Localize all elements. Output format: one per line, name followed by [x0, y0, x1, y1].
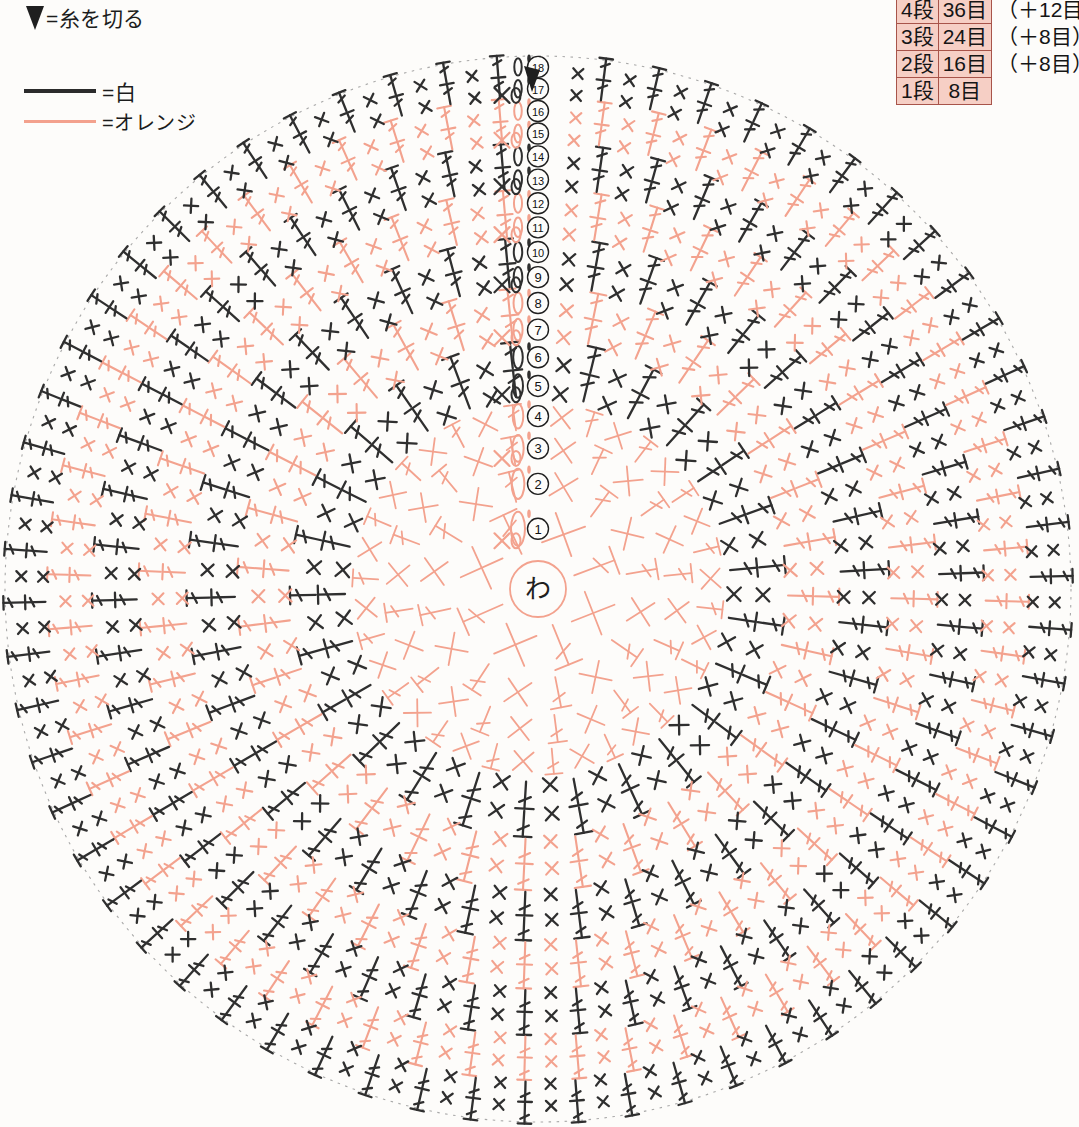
legend-row-cut: =糸を切る — [24, 2, 324, 32]
round-number-label: 2 — [534, 477, 541, 492]
table-cell-round: 3段 — [897, 24, 939, 51]
round-number-label: 5 — [534, 379, 541, 394]
legend-orange-label: =オレンジ — [102, 107, 196, 136]
table-cell-note: （＋8目） — [992, 51, 1079, 78]
legend-row-orange: =オレンジ — [24, 106, 324, 136]
round-number-label: 13 — [532, 175, 544, 187]
legend: =糸を切る =白 =オレンジ — [24, 2, 324, 136]
table-cell-note: （＋12目） — [992, 0, 1079, 24]
round-number-label: 9 — [534, 270, 541, 285]
table-cell-count: 36目 — [938, 0, 991, 24]
table-cell-count: 8目 — [938, 78, 991, 105]
triangle-down-icon — [24, 4, 46, 30]
table-cell-round: 4段 — [897, 0, 939, 24]
crochet-circular-diagram: わ123456789101112131415161718 — [0, 0, 1079, 1127]
table-row: 2段16目（＋8目） — [897, 51, 1079, 78]
magic-ring-label: わ — [525, 574, 551, 604]
round-number-label: 4 — [534, 409, 541, 424]
legend-cut-label: =糸を切る — [46, 2, 145, 32]
round-number-label: 15 — [532, 128, 544, 140]
legend-white-label: =白 — [102, 76, 136, 106]
round-number-label: 12 — [532, 198, 544, 210]
round-number-label: 7 — [534, 323, 541, 338]
table-cell-round: 2段 — [897, 51, 939, 78]
round-number-label: 14 — [532, 151, 544, 163]
round-number-label: 16 — [532, 106, 544, 118]
table-cell-note: （＋8目） — [992, 24, 1079, 51]
table-cell-count: 16目 — [938, 51, 991, 78]
table-row: 4段36目（＋12目） — [897, 0, 1079, 24]
table-cell-note — [992, 78, 1079, 105]
chart-canvas: わ123456789101112131415161718 =糸を切る =白 =オ… — [0, 0, 1079, 1127]
round-number-label: 1 — [534, 522, 541, 537]
round-number-label: 3 — [534, 441, 541, 456]
round-number-label: 10 — [532, 247, 544, 259]
round-number-label: 6 — [534, 350, 541, 365]
legend-row-white: =白 — [24, 76, 324, 106]
table-cell-round: 1段 — [897, 78, 939, 105]
table-row: 1段8目 — [897, 78, 1079, 105]
stitch-count-table: 5段50目4段36目（＋12目）3段24目（＋8目）2段16目（＋8目）1段8目 — [896, 0, 1079, 105]
legend-swatch-orange — [24, 120, 96, 123]
round-number-label: 11 — [532, 222, 543, 234]
legend-swatch-black — [24, 89, 96, 93]
table-cell-count: 24目 — [938, 24, 991, 51]
table-row: 3段24目（＋8目） — [897, 24, 1079, 51]
round-number-label: 8 — [534, 296, 541, 311]
